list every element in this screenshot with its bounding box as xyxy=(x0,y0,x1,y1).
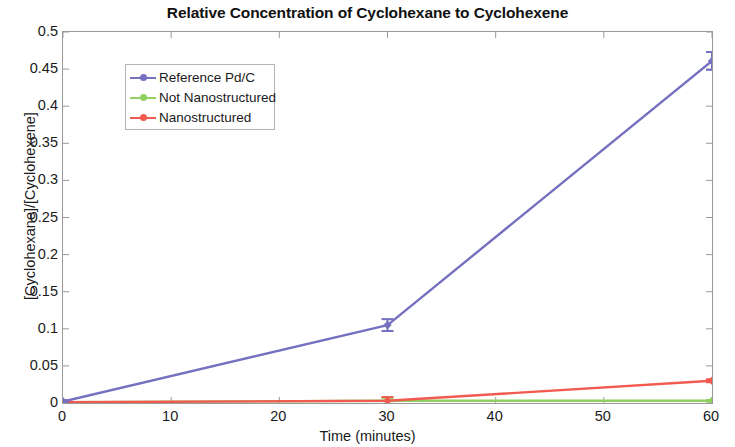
y-tick-label: 0.2 xyxy=(2,246,58,262)
y-tick-label: 0.5 xyxy=(2,23,58,39)
chart-legend: Reference Pd/C Not Nanostructured Nanost… xyxy=(125,64,275,130)
x-tick-label: 10 xyxy=(162,408,178,424)
y-tick-label: 0.4 xyxy=(2,97,58,113)
y-tick-label: 0.25 xyxy=(2,209,58,225)
plot-area: Reference Pd/C Not Nanostructured Nanost… xyxy=(62,31,713,404)
x-tick-label: 30 xyxy=(378,408,394,424)
x-tick-label: 60 xyxy=(703,408,719,424)
x-tick-label: 0 xyxy=(58,408,66,424)
y-tick-label: 0.05 xyxy=(2,357,58,373)
legend-label-nanostructured: Nanostructured xyxy=(159,111,251,125)
x-axis-tick-labels: 0102030405060 xyxy=(62,408,713,430)
chart-figure: Relative Concentration of Cyclohexane to… xyxy=(0,0,735,447)
legend-label-reference-pd-c: Reference Pd/C xyxy=(159,71,255,85)
legend-item-nanostructured[interactable]: Nanostructured xyxy=(130,108,270,128)
y-tick-label: 0.35 xyxy=(2,134,58,150)
x-tick-label: 50 xyxy=(595,408,611,424)
legend-swatch-not-nanostructured xyxy=(130,91,156,105)
legend-item-reference-pd-c[interactable]: Reference Pd/C xyxy=(130,68,270,88)
y-tick-label: 0.3 xyxy=(2,171,58,187)
y-axis-tick-labels: 00.050.10.150.20.250.30.350.40.450.5 xyxy=(0,31,58,404)
y-tick-label: 0.15 xyxy=(2,283,58,299)
x-tick-label: 20 xyxy=(270,408,286,424)
y-tick-label: 0 xyxy=(2,394,58,410)
legend-swatch-reference-pd-c xyxy=(130,71,156,85)
legend-label-not-nanostructured: Not Nanostructured xyxy=(159,91,276,105)
chart-title: Relative Concentration of Cyclohexane to… xyxy=(0,4,735,22)
x-tick-label: 40 xyxy=(487,408,503,424)
series-nanostructured xyxy=(63,377,712,403)
legend-item-not-nanostructured[interactable]: Not Nanostructured xyxy=(130,88,270,108)
y-tick-label: 0.45 xyxy=(2,60,58,76)
legend-swatch-nanostructured xyxy=(130,111,156,125)
x-axis-label: Time (minutes) xyxy=(0,428,735,444)
y-tick-label: 0.1 xyxy=(2,320,58,336)
